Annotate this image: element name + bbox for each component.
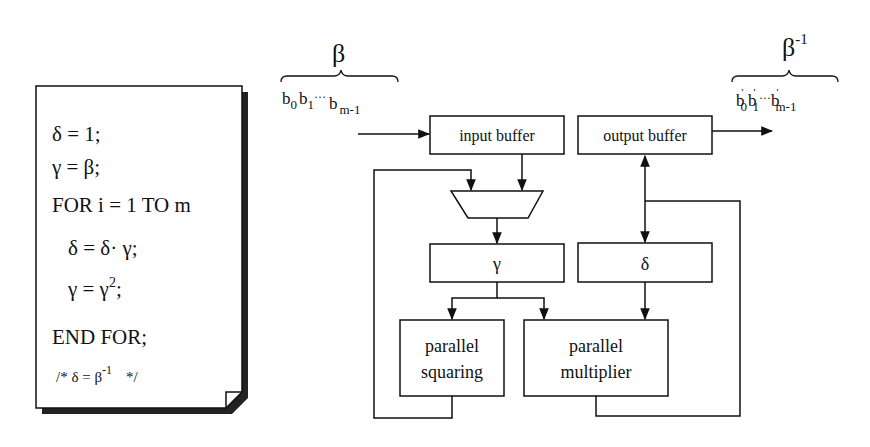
parallel-multiplier-block: parallel multiplier	[524, 320, 668, 396]
delta-register-label: δ	[641, 254, 649, 274]
parallel-squaring-box	[400, 320, 504, 396]
output-bits: b'0b'1···b'm-1	[736, 86, 796, 114]
parallel-multiplier-box	[524, 320, 668, 396]
block-diagram: δ = 1; γ = β; FOR i = 1 TO m δ = δ· γ; γ…	[0, 0, 870, 447]
parallel-squaring-label-1: parallel	[425, 336, 479, 356]
parallel-multiplier-label-1: parallel	[569, 336, 623, 356]
output-beta-inverse-symbol: β-1	[782, 31, 808, 62]
gamma-to-squaring-arrow	[452, 282, 497, 319]
input-buffer-label: input buffer	[459, 127, 535, 145]
gamma-to-multiplier-arrow	[497, 298, 544, 319]
input-brace	[281, 70, 398, 82]
parallel-squaring-block: parallel squaring	[400, 320, 504, 396]
input-label: β b0b1···bm-1	[281, 39, 398, 117]
code-line-6: END FOR;	[52, 325, 147, 349]
code-line-2: γ = β;	[51, 155, 100, 179]
input-buffer-block: input buffer	[430, 116, 564, 154]
input-beta-symbol: β	[332, 39, 345, 68]
input-bits: b0b1···bm-1	[282, 89, 360, 117]
code-line-3: FOR i = 1 TO m	[52, 193, 191, 217]
output-brace	[732, 70, 838, 82]
delta-register-block: δ	[578, 243, 712, 282]
code-line-4: δ = δ· γ;	[68, 236, 138, 260]
multiplexer	[451, 191, 543, 218]
parallel-squaring-label-2: squaring	[421, 362, 483, 382]
parallel-multiplier-label-2: multiplier	[561, 362, 632, 382]
gamma-register-label: γ	[492, 254, 501, 274]
output-buffer-label: output buffer	[603, 127, 687, 145]
gamma-register-block: γ	[430, 244, 564, 282]
output-buffer-block: output buffer	[578, 116, 712, 154]
output-label: β-1 b'0b'1···b'm-1	[732, 31, 838, 114]
algorithm-listing: δ = 1; γ = β; FOR i = 1 TO m δ = δ· γ; γ…	[36, 86, 248, 414]
code-line-1: δ = 1;	[52, 122, 101, 146]
